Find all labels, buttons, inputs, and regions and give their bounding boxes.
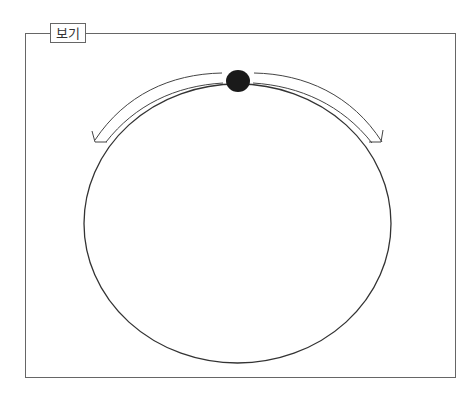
black-dot bbox=[226, 70, 250, 92]
circle-diagram bbox=[0, 0, 476, 399]
right-arrow-icon bbox=[253, 73, 383, 143]
left-arrow-icon bbox=[92, 73, 223, 142]
orbit-circle bbox=[84, 84, 391, 363]
